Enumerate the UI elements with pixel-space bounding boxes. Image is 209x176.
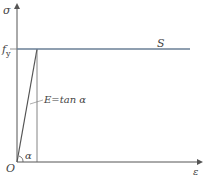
modulus-label: E=tan α (43, 94, 86, 105)
curve-label: S (157, 37, 165, 50)
origin-label: O (6, 162, 15, 175)
angle-label: α (25, 150, 32, 161)
stress-strain-diagram: σ ε O fy S E=tan α α (0, 0, 209, 176)
y-axis-label: σ (3, 4, 11, 17)
angle-arc (19, 156, 23, 162)
modulus-leader (30, 100, 43, 104)
yield-label: fy (1, 43, 11, 58)
elastic-line (17, 49, 37, 162)
x-axis-label: ε (193, 166, 198, 176)
